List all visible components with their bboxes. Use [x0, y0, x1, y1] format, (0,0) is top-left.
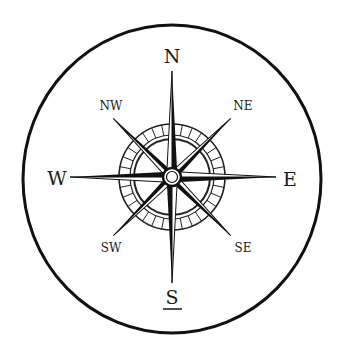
label-east: E — [283, 168, 297, 190]
label-southwest: SW — [101, 241, 122, 255]
label-southeast: SE — [235, 241, 252, 255]
label-west: W — [47, 167, 67, 189]
label-northeast: NE — [233, 99, 252, 113]
compass-rose: N E S W NE SE SW NW — [0, 0, 341, 361]
label-northwest: NW — [100, 99, 124, 113]
label-north: N — [164, 45, 181, 67]
label-south: S — [165, 286, 178, 308]
